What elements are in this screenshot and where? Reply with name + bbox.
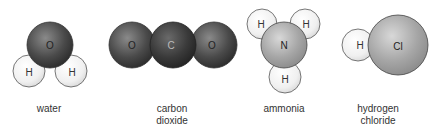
atom-label: H <box>68 67 75 78</box>
atom-label: O <box>208 40 216 51</box>
atom-label: H <box>257 19 264 30</box>
molecule-name: chloride <box>360 115 395 126</box>
molecule-name: ammonia <box>263 103 305 114</box>
atom-label: N <box>280 40 287 51</box>
atom-label: H <box>25 67 32 78</box>
atom-label: H <box>281 74 288 85</box>
hydrogen-chloride-molecule: H Cl hydrogen chloride <box>342 15 428 126</box>
molecule-name: carbon <box>157 103 188 114</box>
atom-label: C <box>167 40 174 51</box>
ammonia-molecule: H H N H ammonia <box>247 9 320 114</box>
molecule-name: hydrogen <box>357 103 399 114</box>
carbon-dioxide-molecule: O C O carbon dioxide <box>109 22 237 126</box>
atom-label: H <box>302 19 309 30</box>
atom-label: O <box>46 40 54 51</box>
molecule-name: water <box>36 103 62 114</box>
atom-label: O <box>128 40 136 51</box>
water-molecule: O H H water <box>13 22 87 114</box>
molecule-name: dioxide <box>156 115 188 126</box>
molecule-diagram: O H H water O C O carbon dioxide H H N H… <box>0 0 438 134</box>
atom-label: H <box>356 40 363 51</box>
atom-label: Cl <box>393 41 402 52</box>
